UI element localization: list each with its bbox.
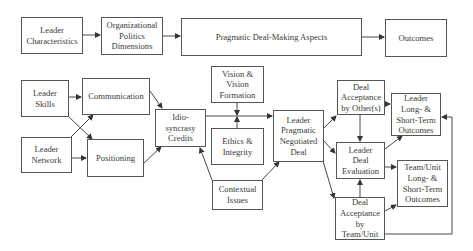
diagram-canvas: Leader Characteristics Organizational Po… (0, 0, 473, 251)
box-leader-long-short-term-outcomes: Leader Long- & Short-Term Outcomes (391, 93, 441, 136)
box-vision-formation: Vision & Vision Formation (211, 66, 264, 103)
box-team-unit-long-short-term-outcomes: Team/Unit Long- & Short-Term Outcomes (397, 160, 448, 207)
box-organizational-politics-dimensions: Organizational Politics Dimensions (101, 17, 163, 55)
box-deal-acceptance-by-others: Deal Acceptance by Other(s) (337, 80, 385, 115)
box-outcomes: Outcomes (385, 19, 447, 57)
box-contextual-issues: Contextual Issues (212, 180, 263, 210)
box-leader-pragmatic-negotiated-deal: Leader Pragmatic Negotiated Deal (273, 110, 324, 162)
box-pragmatic-deal-making-aspects: Pragmatic Deal-Making Aspects (181, 18, 362, 56)
box-positioning: Positioning (87, 139, 144, 177)
box-deal-acceptance-by-team-unit: Deal Acceptance by Team/Unit (335, 197, 385, 240)
box-leader-characteristics: Leader Characteristics (21, 17, 83, 54)
box-communication: Communication (82, 78, 150, 115)
box-leader-network: Leader Network (21, 137, 72, 173)
box-ethics-integrity: Ethics & Integrity (211, 128, 264, 165)
box-idiosyncrasy-credits: Idio- syncrasy Credits (155, 109, 206, 147)
box-leader-skills: Leader Skills (21, 80, 69, 117)
box-leader-deal-evaluation: Leader Deal Evaluation (336, 142, 385, 179)
